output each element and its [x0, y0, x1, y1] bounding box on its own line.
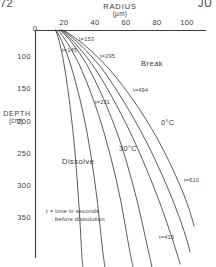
- region-label-dissolve: Dissolve: [62, 158, 94, 166]
- curve-label-t-610: t=610: [184, 178, 199, 184]
- plot-area: [0, 0, 216, 267]
- region-label-break: Break: [141, 60, 163, 68]
- temperature-label-30c: 30°C: [119, 145, 137, 153]
- curve-t-145: [56, 30, 84, 267]
- figure-container: 72 JU RADIUS (µm) 0 20 40 60 80 100 100 …: [0, 0, 216, 267]
- curve-label-t-494: t=494: [133, 88, 148, 94]
- curve-label-t-231: t=231: [95, 100, 110, 106]
- curve-label-t-415: t=415: [159, 235, 174, 241]
- temperature-label-0c: 0°C: [161, 119, 175, 127]
- legend-note-line-2: before dissolution: [55, 215, 105, 224]
- curve-label-t-295: t=295: [100, 54, 115, 60]
- curve-label-t-145: t=145: [62, 48, 77, 54]
- curve-label-t-153: t=153: [79, 37, 94, 43]
